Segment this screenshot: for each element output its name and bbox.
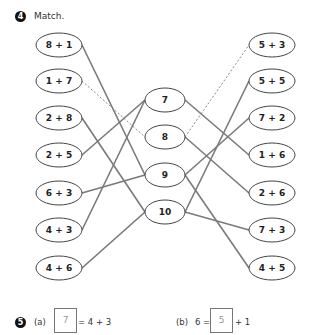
part-b-prefix: 6 = xyxy=(195,317,210,327)
middle-oval-label: 9 xyxy=(162,170,168,180)
connection-line-right-6 xyxy=(185,212,249,230)
right-oval-label: 7 + 2 xyxy=(259,113,285,123)
left-oval-label: 2 + 5 xyxy=(46,150,72,160)
right-oval-label: 1 + 6 xyxy=(259,150,285,160)
connection-line-left-4 xyxy=(82,175,145,193)
connection-line-right-1 xyxy=(185,45,249,137)
right-oval-label: 4 + 5 xyxy=(259,263,285,273)
right-oval-label: 2 + 6 xyxy=(259,188,285,198)
part-b-answer-box[interactable]: 5 xyxy=(210,308,233,333)
left-oval-label: 4 + 6 xyxy=(46,263,72,273)
connection-line-left-6 xyxy=(82,212,145,268)
part-b-answer: 5 xyxy=(219,315,225,325)
part-b-suffix: + 1 xyxy=(235,317,250,327)
right-oval-label: 5 + 5 xyxy=(259,76,285,86)
connection-line-left-0 xyxy=(82,45,145,175)
connection-line-left-5 xyxy=(82,100,145,230)
middle-oval-label: 8 xyxy=(162,132,168,142)
left-oval-label: 1 + 7 xyxy=(46,76,72,86)
left-oval-label: 4 + 3 xyxy=(46,225,72,235)
right-oval-label: 7 + 3 xyxy=(259,225,285,235)
middle-oval-label: 10 xyxy=(159,207,172,217)
left-oval-label: 2 + 8 xyxy=(46,113,72,123)
part-a-answer-box[interactable]: 7 xyxy=(54,308,77,333)
part-a-equation: = 4 + 3 xyxy=(78,317,111,327)
part-b-label: (b) xyxy=(176,317,188,327)
question-5-number-badge: 5 xyxy=(15,317,26,328)
part-a-label: (a) xyxy=(34,317,46,327)
left-oval-label: 6 + 3 xyxy=(46,188,72,198)
left-oval-label: 8 + 1 xyxy=(46,40,72,50)
part-a-answer: 7 xyxy=(63,315,69,325)
matching-diagram xyxy=(0,0,314,335)
middle-oval-label: 7 xyxy=(162,95,168,105)
right-oval-label: 5 + 3 xyxy=(259,40,285,50)
